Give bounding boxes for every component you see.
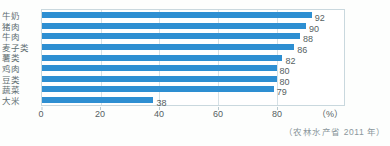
plot-area: 929088868280807938 xyxy=(41,9,345,106)
bar-value-label: 79 xyxy=(277,87,287,98)
axis-unit-label: （%） xyxy=(317,107,343,120)
x-tick-label-40: 40 xyxy=(154,109,164,119)
bar xyxy=(42,65,277,71)
bar-value-label: 88 xyxy=(303,34,313,45)
food-self-sufficiency-bar-chart: 牛奶猪肉牛肉麦子类薯类鸡肉豆类蔬菜大米 929088868280807938 （… xyxy=(0,0,390,146)
x-tick-label-0: 0 xyxy=(38,109,43,119)
bar xyxy=(42,33,300,39)
bar xyxy=(42,86,274,92)
bar xyxy=(42,55,282,61)
x-tick-label-60: 60 xyxy=(213,109,223,119)
bar xyxy=(42,12,312,18)
category-label: 大米 xyxy=(2,94,40,104)
x-tick-label-80: 80 xyxy=(272,109,282,119)
bar xyxy=(42,97,153,103)
bar-value-label: 80 xyxy=(280,76,290,87)
x-axis: （%） 020406080 xyxy=(41,107,345,121)
bar-value-label: 92 xyxy=(315,13,325,24)
source-note: （农林水产省 2011 年） xyxy=(284,125,386,137)
bar-value-label: 90 xyxy=(309,23,319,34)
bar-value-label: 82 xyxy=(285,55,295,66)
x-tick-label-20: 20 xyxy=(95,109,105,119)
bar xyxy=(42,23,306,29)
bar xyxy=(42,76,277,82)
bar-value-label: 86 xyxy=(297,44,307,55)
bar xyxy=(42,44,294,50)
bar-value-label: 80 xyxy=(280,66,290,77)
